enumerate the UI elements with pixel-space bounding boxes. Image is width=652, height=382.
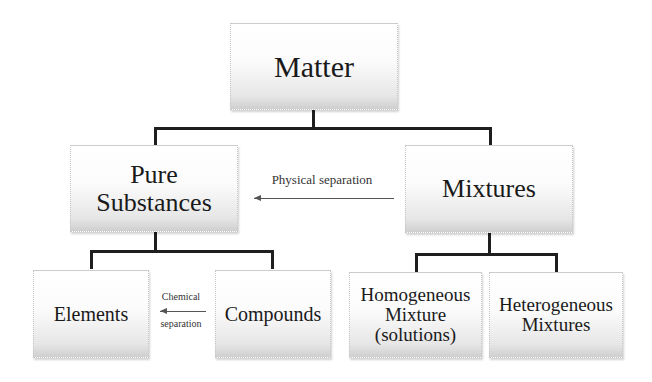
node-compounds-label: Compounds [225, 304, 322, 325]
connector-to-heterogeneous [555, 253, 558, 272]
connector-level1-horizontal [154, 127, 492, 130]
connector-to-elements [90, 250, 93, 269]
node-homogeneous-line1: Homogeneous [361, 285, 471, 305]
node-pure-label-line2: Substances [96, 189, 212, 216]
connector-pure-horizontal [90, 250, 274, 253]
physical-separation-label: Physical separation [252, 172, 392, 188]
node-mixtures-label: Mixtures [442, 175, 536, 202]
connector-to-homogeneous [415, 253, 418, 272]
node-homogeneous-line3: (solutions) [375, 325, 456, 345]
node-heterogeneous-line2: Mixtures [522, 315, 591, 335]
connector-mixtures-down [488, 233, 491, 255]
connector-pure-down [154, 231, 157, 252]
chemical-separation-label-top: Chemical [152, 291, 210, 302]
node-elements: Elements [33, 270, 149, 358]
node-homogeneous: Homogeneous Mixture (solutions) [349, 272, 482, 358]
physical-separation-arrow [254, 198, 394, 199]
connector-to-mixtures [489, 127, 492, 145]
connector-mixtures-horizontal [415, 253, 558, 256]
connector-to-compounds [271, 250, 274, 269]
chemical-separation-label-bottom: separation [152, 318, 210, 329]
node-compounds: Compounds [215, 270, 331, 358]
node-matter-label: Matter [274, 51, 354, 83]
node-heterogeneous-line1: Heterogeneous [499, 295, 613, 315]
connector-to-pure [154, 127, 157, 145]
node-matter: Matter [230, 23, 398, 110]
node-elements-label: Elements [54, 304, 128, 325]
node-pure-label-line1: Pure [130, 161, 178, 188]
chemical-separation-arrow [160, 311, 206, 312]
node-mixtures: Mixtures [405, 145, 573, 233]
node-pure-substances: Pure Substances [70, 145, 238, 232]
node-heterogeneous: Heterogeneous Mixtures [489, 272, 623, 358]
node-homogeneous-line2: Mixture [385, 305, 446, 325]
